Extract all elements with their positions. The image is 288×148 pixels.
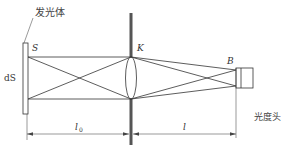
label-l0: l 0 xyxy=(75,122,83,133)
label-S: S xyxy=(32,43,38,53)
photometer-head xyxy=(236,68,253,138)
label-source-name: 发光体 xyxy=(35,6,65,18)
svg-text:0: 0 xyxy=(79,126,83,133)
svg-text:l: l xyxy=(75,122,78,132)
source-leader-line xyxy=(24,18,33,43)
label-l: l xyxy=(183,122,186,132)
label-dS: dS xyxy=(4,73,16,83)
rays-lens-to-detector xyxy=(131,57,236,99)
optical-diagram: 发光体 S dS K B 光度头 l 0 l xyxy=(0,0,288,148)
lens xyxy=(126,57,137,99)
aperture-bar xyxy=(130,13,133,145)
label-B: B xyxy=(226,56,234,66)
rays-source-to-lens xyxy=(28,57,131,99)
light-source xyxy=(23,43,28,114)
label-detector-name: 光度头 xyxy=(254,111,281,122)
label-K: K xyxy=(136,43,145,53)
